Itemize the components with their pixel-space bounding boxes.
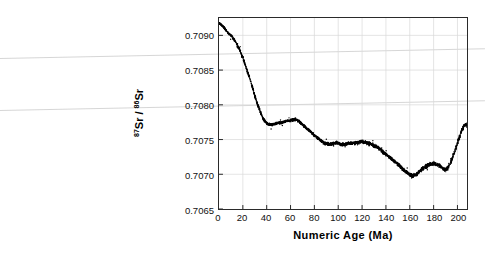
x-axis-tick-label: 20	[237, 212, 248, 223]
y-axis-tick-label: 0.7070	[185, 169, 214, 180]
y-axis-tick-label: 0.7085	[185, 64, 214, 75]
y-axis-tick-label: 0.7065	[185, 205, 214, 216]
y-axis-title-denominator: 86	[133, 101, 140, 109]
x-axis-tick-label: 200	[450, 212, 466, 223]
x-axis-tick-label: 100	[330, 212, 346, 223]
y-axis-tick-label: 0.7075	[185, 134, 214, 145]
x-axis-tick-label: 40	[261, 212, 272, 223]
x-axis-tick-label: 0	[215, 212, 220, 223]
x-axis-tick-label: 180	[426, 212, 442, 223]
x-axis-tick-labels: 020406080100120140160180200	[218, 212, 468, 228]
x-axis-tick-label: 140	[378, 212, 394, 223]
plot-area	[218, 17, 468, 210]
x-axis-tick-label: 120	[354, 212, 370, 223]
figure-canvas: 0.70650.70700.70750.70800.70850.7090 020…	[0, 0, 485, 255]
y-axis-title-element-1: Sr	[133, 118, 145, 130]
y-axis-title-element-2: Sr	[133, 89, 145, 101]
x-axis-tick-label: 160	[402, 212, 418, 223]
y-axis-title-numerator: 87	[133, 129, 140, 137]
data-scatter-series	[219, 18, 467, 209]
y-axis-title: 87Sr / 86Sr	[133, 89, 146, 137]
y-axis-tick-label: 0.7090	[185, 29, 214, 40]
x-axis-tick-label: 60	[285, 212, 296, 223]
y-axis-tick-labels: 0.70650.70700.70750.70800.70850.7090	[170, 17, 214, 210]
x-axis-tick-label: 80	[309, 212, 320, 223]
y-axis-tick-label: 0.7080	[185, 99, 214, 110]
x-axis-title: Numeric Age (Ma)	[218, 229, 468, 241]
